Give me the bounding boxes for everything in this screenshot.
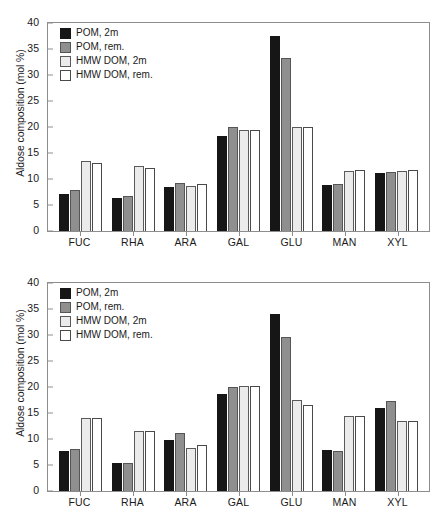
bar-xyl-series2 xyxy=(397,421,407,491)
bar-glu-series1 xyxy=(281,58,291,231)
legend-item: POM, 2m xyxy=(60,27,153,39)
y-tick-label: 0 xyxy=(33,484,39,497)
y-tick-mark xyxy=(48,74,53,75)
chart-panel-bottom: Aldose composition (mol %) 12°S 05101520… xyxy=(0,260,446,520)
legend-item: HMW DOM, 2m xyxy=(60,55,153,67)
bar-rha-series3 xyxy=(145,431,155,491)
bar-glu-series0 xyxy=(270,314,280,491)
bar-ara-series2 xyxy=(186,186,196,231)
x-tick-label-ara: ARA xyxy=(159,236,212,248)
bar-man-series0 xyxy=(322,450,332,491)
legend-label: POM, 2m xyxy=(76,287,118,299)
bar-man-series1 xyxy=(333,451,343,491)
x-tick-label-man: MAN xyxy=(318,496,371,508)
legend-item: POM, 2m xyxy=(60,287,153,299)
y-tick-label: 10 xyxy=(27,172,39,185)
bar-man-series1 xyxy=(333,184,343,231)
bar-xyl-series3 xyxy=(408,170,418,231)
bar-gal-series0 xyxy=(217,394,227,491)
bar-group-man xyxy=(318,283,371,491)
bar-group-man xyxy=(318,23,371,231)
bar-rha-series2 xyxy=(134,431,144,491)
bar-fuc-series2 xyxy=(81,161,91,231)
legend-label: POM, rem. xyxy=(76,301,124,313)
bar-man-series3 xyxy=(355,416,365,491)
bar-fuc-series1 xyxy=(70,190,80,231)
legend-label: HMW DOM, 2m xyxy=(76,55,147,67)
y-tick-mark xyxy=(48,22,53,23)
bar-rha-series0 xyxy=(112,463,122,491)
y-tick-label: 25 xyxy=(27,94,39,107)
bar-ara-series2 xyxy=(186,448,196,491)
bar-fuc-series3 xyxy=(92,418,102,491)
bar-group-glu xyxy=(265,283,318,491)
bar-gal-series2 xyxy=(239,130,249,231)
bar-fuc-series3 xyxy=(92,163,102,231)
legend-item: HMW DOM, rem. xyxy=(60,329,153,341)
bar-group-gal xyxy=(212,283,265,491)
y-tick-label: 30 xyxy=(27,68,39,81)
bar-glu-series0 xyxy=(270,36,280,231)
bar-glu-series3 xyxy=(303,127,313,231)
legend-item: HMW DOM, 2m xyxy=(60,315,153,327)
x-tick-label-rha: RHA xyxy=(106,496,159,508)
bar-gal-series1 xyxy=(228,127,238,231)
y-tick-mark xyxy=(48,412,53,413)
bar-rha-series3 xyxy=(145,168,155,231)
bar-gal-series3 xyxy=(250,130,260,231)
bar-group-xyl xyxy=(370,283,423,491)
y-tick-mark xyxy=(48,438,53,439)
x-tick-label-fuc: FUC xyxy=(53,496,106,508)
bar-man-series2 xyxy=(344,416,354,491)
legend-label: HMW DOM, rem. xyxy=(76,69,153,81)
legend-item: POM, rem. xyxy=(60,301,153,313)
y-tick-mark xyxy=(48,360,53,361)
bar-ara-series1 xyxy=(175,183,185,231)
legend-swatch-icon xyxy=(60,302,71,313)
legend-item: HMW DOM, rem. xyxy=(60,69,153,81)
x-axis-labels-top: FUCRHAARAGALGLUMANXYL xyxy=(47,236,430,248)
y-tick-label: 25 xyxy=(27,354,39,367)
x-tick-label-fuc: FUC xyxy=(53,236,106,248)
legend-label: HMW DOM, rem. xyxy=(76,329,153,341)
bar-rha-series2 xyxy=(134,166,144,231)
bar-xyl-series0 xyxy=(375,173,385,231)
chart-panel-top: Aldose composition (mol %) 2°S 051015202… xyxy=(0,0,446,260)
legend-label: POM, 2m xyxy=(76,27,118,39)
y-tick-mark xyxy=(48,308,53,309)
legend-swatch-icon xyxy=(60,330,71,341)
figure-aldose-composition: Aldose composition (mol %) 2°S 051015202… xyxy=(0,0,446,520)
y-tick-mark xyxy=(48,386,53,387)
y-tick-mark xyxy=(48,152,53,153)
y-tick-label: 5 xyxy=(33,458,39,471)
bar-gal-series2 xyxy=(239,386,249,491)
x-tick-label-glu: GLU xyxy=(265,236,318,248)
bar-gal-series3 xyxy=(250,386,260,491)
y-tick-mark xyxy=(48,126,53,127)
bar-xyl-series1 xyxy=(386,172,396,231)
y-tick-label: 40 xyxy=(27,276,39,289)
bar-man-series0 xyxy=(322,185,332,231)
y-tick-mark xyxy=(48,48,53,49)
legend-item: POM, rem. xyxy=(60,41,153,53)
x-tick-label-glu: GLU xyxy=(265,496,318,508)
bar-group-ara xyxy=(159,23,212,231)
bar-rha-series0 xyxy=(112,198,122,231)
bar-glu-series1 xyxy=(281,337,291,491)
y-tick-label: 35 xyxy=(27,42,39,55)
x-tick-label-gal: GAL xyxy=(212,236,265,248)
bar-ara-series3 xyxy=(197,445,207,491)
x-tick-label-man: MAN xyxy=(318,236,371,248)
bar-glu-series2 xyxy=(292,400,302,491)
bar-ara-series0 xyxy=(164,187,174,231)
y-tick-label: 15 xyxy=(27,146,39,159)
bar-glu-series3 xyxy=(303,405,313,491)
y-tick-mark xyxy=(48,464,53,465)
bar-group-gal xyxy=(212,23,265,231)
y-tick-label: 0 xyxy=(33,224,39,237)
bar-group-glu xyxy=(265,23,318,231)
y-tick-label: 40 xyxy=(27,16,39,29)
legend-label: HMW DOM, 2m xyxy=(76,315,147,327)
bar-gal-series0 xyxy=(217,136,227,231)
bar-ara-series0 xyxy=(164,440,174,491)
